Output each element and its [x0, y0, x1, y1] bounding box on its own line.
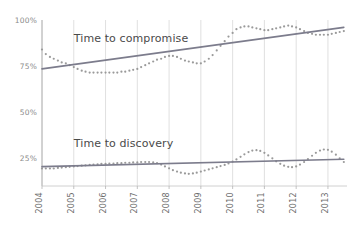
- data-point: [315, 34, 317, 36]
- data-point: [216, 166, 218, 168]
- data-point: [263, 152, 265, 154]
- series-annotation-1: Time to discovery: [73, 137, 174, 150]
- data-point: [295, 165, 297, 167]
- data-point: [287, 166, 289, 168]
- data-point: [247, 25, 249, 27]
- data-point: [184, 172, 186, 174]
- data-point: [45, 53, 47, 55]
- y-tick-label-100%: 100%: [15, 16, 37, 25]
- data-point: [235, 158, 237, 160]
- data-point: [188, 173, 190, 175]
- data-point: [176, 56, 178, 58]
- x-tick-label-2012: 2012: [289, 192, 298, 214]
- data-point: [41, 48, 43, 50]
- data-point: [188, 60, 190, 62]
- chart-canvas: 100%75%50%25%200420052006200720082009201…: [0, 0, 361, 235]
- data-point: [323, 34, 325, 36]
- data-point: [124, 162, 126, 164]
- data-point: [295, 26, 297, 28]
- x-tick-label-2010: 2010: [226, 192, 235, 214]
- data-point: [343, 30, 345, 32]
- data-point: [275, 27, 277, 29]
- data-point: [263, 29, 265, 31]
- data-point: [323, 148, 325, 150]
- data-point: [335, 154, 337, 156]
- data-point: [136, 68, 138, 70]
- data-point: [116, 71, 118, 73]
- data-point: [247, 151, 249, 153]
- data-point: [271, 157, 273, 159]
- data-point: [299, 164, 301, 166]
- data-point: [41, 167, 43, 169]
- data-point: [45, 167, 47, 169]
- data-point: [84, 71, 86, 73]
- data-point: [212, 167, 214, 169]
- data-point: [287, 24, 289, 26]
- data-point: [128, 70, 130, 72]
- x-tick-label-2006: 2006: [99, 192, 108, 214]
- data-point: [49, 56, 51, 58]
- data-point: [148, 161, 150, 163]
- data-point: [315, 152, 317, 154]
- data-point: [132, 69, 134, 71]
- data-point: [96, 71, 98, 73]
- data-point: [180, 58, 182, 60]
- data-point: [100, 71, 102, 73]
- data-point: [243, 153, 245, 155]
- data-point: [224, 164, 226, 166]
- y-tick-label-50%: 50%: [20, 108, 37, 117]
- data-point: [132, 161, 134, 163]
- data-point: [239, 156, 241, 158]
- data-point: [331, 33, 333, 35]
- data-point: [184, 59, 186, 61]
- x-tick-label-2005: 2005: [67, 192, 76, 214]
- data-point: [160, 58, 162, 60]
- data-point: [267, 154, 269, 156]
- data-point: [73, 66, 75, 68]
- y-tick-label-75%: 75%: [20, 62, 37, 71]
- data-point: [283, 165, 285, 167]
- data-point: [200, 62, 202, 64]
- data-point: [271, 28, 273, 30]
- series-2-points: [41, 148, 345, 175]
- data-point: [251, 149, 253, 151]
- data-point: [232, 32, 234, 34]
- data-point: [120, 71, 122, 73]
- data-point: [116, 162, 118, 164]
- data-point: [128, 162, 130, 164]
- data-point: [112, 71, 114, 73]
- data-point: [279, 163, 281, 165]
- data-point: [212, 54, 214, 56]
- data-point: [49, 167, 51, 169]
- data-point: [164, 56, 166, 58]
- trendline-3: [42, 159, 344, 166]
- data-point: [343, 161, 345, 163]
- data-point: [259, 28, 261, 30]
- data-point: [192, 172, 194, 174]
- data-point: [319, 34, 321, 36]
- data-point: [192, 61, 194, 63]
- data-point: [259, 150, 261, 152]
- data-point: [172, 169, 174, 171]
- data-point: [255, 27, 257, 29]
- data-point: [57, 167, 59, 169]
- data-point: [57, 59, 59, 61]
- data-point: [219, 165, 221, 167]
- data-point: [156, 59, 158, 61]
- data-point: [65, 62, 67, 64]
- data-point: [76, 68, 78, 70]
- data-point: [319, 149, 321, 151]
- data-point: [180, 172, 182, 174]
- data-point: [303, 30, 305, 32]
- x-tick-label-2011: 2011: [257, 192, 266, 214]
- data-point: [204, 60, 206, 62]
- data-point: [208, 168, 210, 170]
- data-point: [144, 161, 146, 163]
- data-point: [176, 171, 178, 173]
- data-point: [243, 25, 245, 27]
- data-point: [311, 33, 313, 35]
- x-tick-label-2007: 2007: [130, 192, 139, 214]
- data-point: [224, 40, 226, 42]
- data-point: [299, 28, 301, 30]
- data-point: [283, 25, 285, 27]
